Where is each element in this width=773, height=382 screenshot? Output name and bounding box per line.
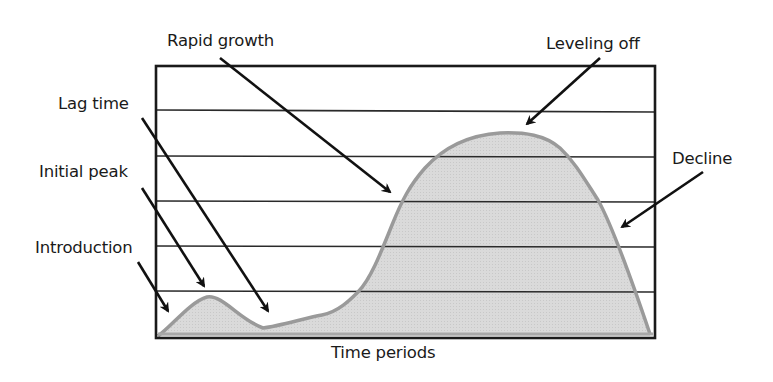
arrow-rapid-growth xyxy=(220,58,390,192)
arrow-initial-peak xyxy=(142,188,204,286)
arrow-leveling-off xyxy=(527,58,600,124)
label-introduction: Introduction xyxy=(35,240,133,257)
arrow-introduction xyxy=(138,262,168,311)
label-initial-peak: Initial peak xyxy=(39,164,128,181)
life-cycle-curve-fill xyxy=(158,133,650,336)
gridline-3 xyxy=(156,201,655,202)
label-leveling-off: Leveling off xyxy=(546,36,640,53)
arrow-decline xyxy=(622,172,703,227)
life-cycle-diagram xyxy=(0,0,773,382)
label-decline: Decline xyxy=(672,151,732,168)
gridline-2 xyxy=(156,156,655,157)
gridline-1 xyxy=(156,110,655,112)
gridline-5 xyxy=(156,291,655,292)
gridline-4 xyxy=(156,246,655,247)
label-rapid-growth: Rapid growth xyxy=(167,33,274,50)
x-axis-label: Time periods xyxy=(331,345,435,362)
arrow-lag-time xyxy=(142,118,268,311)
label-lag-time: Lag time xyxy=(58,96,129,113)
